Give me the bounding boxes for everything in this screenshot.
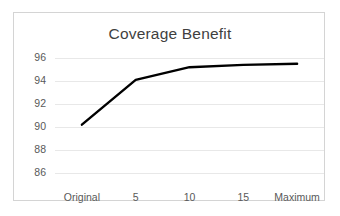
y-axis-tick-label: 96 — [20, 51, 46, 63]
y-axis-tick-label: 94 — [20, 74, 46, 86]
x-axis-tick-label: Maximum — [274, 191, 320, 203]
y-axis-tick-label: 88 — [20, 143, 46, 155]
x-axis-tick-label: Original — [64, 191, 100, 203]
x-axis-tick-label: 10 — [184, 191, 196, 203]
x-axis-tick-label: 5 — [133, 191, 139, 203]
chart-container: Coverage Benefit 969492908886 Original51… — [13, 12, 325, 201]
gridline-group — [55, 59, 324, 174]
y-axis-tick-label: 92 — [20, 97, 46, 109]
y-axis-tick-label: 90 — [20, 120, 46, 132]
chart-plot-area — [14, 13, 326, 202]
data-series-line — [82, 64, 297, 125]
x-axis-tick-label: 15 — [237, 191, 249, 203]
y-axis-tick-label: 86 — [20, 166, 46, 178]
